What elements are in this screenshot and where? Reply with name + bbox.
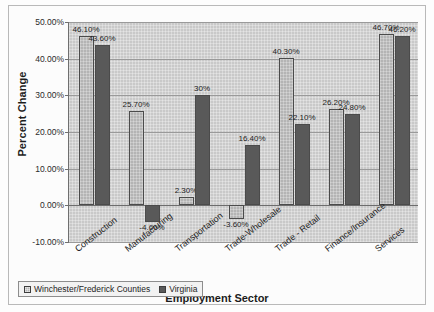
bar-0	[129, 111, 144, 205]
gridline	[69, 95, 418, 96]
y-axis-tick-label: 30.00%	[0, 90, 64, 100]
legend-label: Virginia	[169, 284, 197, 294]
bar-value-label: 46.10%	[72, 25, 99, 34]
gridline	[69, 59, 418, 60]
chart-legend: Winchester/Frederick CountiesVirginia	[18, 281, 203, 297]
bar-1	[95, 45, 110, 205]
bar-0	[279, 58, 294, 206]
y-axis-tick-mark	[65, 242, 69, 243]
plot-area: 46.10%43.60%25.70%-4.60%2.30%30%-3.60%16…	[68, 22, 418, 242]
y-axis-tick-mark	[65, 132, 69, 133]
bar-0	[329, 109, 344, 205]
bar-chart-figure: Percent Change 46.10%43.60%25.70%-4.60%2…	[0, 0, 434, 312]
bar-1	[295, 124, 310, 205]
bar-0	[79, 36, 94, 205]
y-axis-tick-mark	[65, 205, 69, 206]
legend-swatch-icon	[159, 286, 166, 293]
y-axis-tick-label: 10.00%	[0, 164, 64, 174]
bar-1	[195, 95, 210, 205]
bar-0	[379, 34, 394, 205]
gridline	[69, 205, 418, 206]
bar-value-label: 46.20%	[388, 25, 415, 34]
gridline	[69, 132, 418, 133]
gridline	[69, 169, 418, 170]
legend-swatch-icon	[24, 286, 31, 293]
gridline	[69, 22, 418, 23]
y-axis-tick-mark	[65, 22, 69, 23]
bar-value-label: 25.70%	[122, 100, 149, 109]
y-axis-title: Percent Change	[16, 54, 28, 174]
y-axis-tick-mark	[65, 169, 69, 170]
bar-0	[229, 205, 244, 218]
bar-value-label: 24.80%	[338, 103, 365, 112]
bar-value-label: 40.30%	[272, 47, 299, 56]
y-axis-tick-mark	[65, 95, 69, 96]
y-axis-tick-mark	[65, 59, 69, 60]
bar-value-label: 43.60%	[88, 34, 115, 43]
y-axis-tick-label: 20.00%	[0, 127, 64, 137]
y-axis-tick-label: 0.00%	[0, 200, 64, 210]
bar-value-label: 16.40%	[238, 134, 265, 143]
bar-value-label: 22.10%	[288, 113, 315, 122]
bar-1	[245, 145, 260, 205]
bar-1	[345, 114, 360, 205]
legend-entry: Virginia	[159, 284, 197, 294]
y-axis-tick-label: 40.00%	[0, 54, 64, 64]
bar-0	[179, 197, 194, 205]
legend-label: Winchester/Frederick Counties	[34, 284, 150, 294]
bar-value-label: 30%	[194, 84, 210, 93]
y-axis-tick-label: 50.00%	[0, 17, 64, 27]
legend-entry: Winchester/Frederick Counties	[24, 284, 150, 294]
bar-1	[395, 36, 410, 205]
y-axis-tick-label: -10.00%	[0, 237, 64, 247]
